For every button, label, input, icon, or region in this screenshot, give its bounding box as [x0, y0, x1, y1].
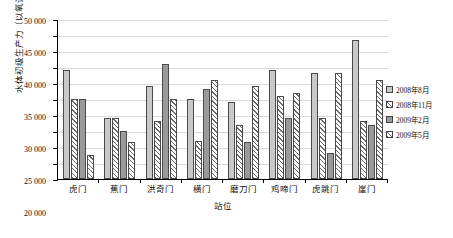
- bar: [162, 64, 169, 179]
- bar: [352, 40, 359, 179]
- bar: [87, 155, 94, 179]
- bar-group: [306, 20, 347, 179]
- bar-chart: 水体初级生产力（以氧计，mg/m³） 05 00010 00015 00020 …: [0, 0, 453, 238]
- legend-item[interactable]: 2008年8月: [386, 82, 452, 97]
- legend-swatch: [386, 116, 393, 123]
- y-axis-tick-label: 35 000: [2, 113, 46, 122]
- legend-swatch: [386, 101, 393, 108]
- bar: [170, 99, 177, 179]
- bar-groups: [58, 20, 388, 179]
- bar: [327, 153, 334, 179]
- y-axis-tick-label: 50 000: [2, 17, 46, 26]
- x-axis-tick-label: 崖门: [347, 182, 388, 194]
- x-axis-tick-label: 虎跳门: [305, 182, 346, 194]
- bar: [195, 141, 202, 179]
- legend-swatch: [386, 131, 393, 138]
- bar: [360, 121, 367, 179]
- bar: [228, 102, 235, 179]
- bar-group: [58, 20, 99, 179]
- bar: [79, 99, 86, 179]
- x-axis-tick-label: 磨刀门: [223, 182, 264, 194]
- bar: [146, 86, 153, 179]
- x-axis-tick-label: 洪奇门: [140, 182, 181, 194]
- bar-group: [141, 20, 182, 179]
- x-axis-tick-label: 横门: [181, 182, 222, 194]
- bar: [63, 70, 70, 179]
- legend-label: 2009年5月: [396, 129, 429, 140]
- bar: [112, 118, 119, 179]
- x-axis-tick-label: 虎门: [57, 182, 98, 194]
- y-axis-tick-label: 25 000: [2, 177, 46, 186]
- bar: [376, 80, 383, 179]
- bar: [71, 99, 78, 179]
- legend-swatch: [386, 86, 393, 93]
- legend-item[interactable]: 2009年2月: [386, 112, 452, 127]
- bar: [128, 142, 135, 179]
- y-axis-tick-label: 40 000: [2, 81, 46, 90]
- bar: [252, 86, 259, 179]
- bar-group: [264, 20, 305, 179]
- bar: [154, 121, 161, 179]
- bar-group: [347, 20, 388, 179]
- x-axis-title: 站位: [57, 199, 388, 211]
- y-axis-tick: 0: [53, 180, 58, 181]
- plot-area: 05 00010 00015 00020 00025 00030 00035 0…: [57, 20, 388, 180]
- legend: 2008年8月2008年11月2009年2月2009年5月: [386, 82, 452, 142]
- bar: [277, 96, 284, 179]
- bar: [368, 125, 375, 179]
- y-axis-tick-label: 30 000: [2, 145, 46, 154]
- x-axis-tick-label: 鸡啼门: [264, 182, 305, 194]
- bar: [236, 125, 243, 179]
- bar: [335, 73, 342, 179]
- y-axis-tick-label: 20 000: [2, 209, 46, 218]
- x-axis-tick-label: 蕉门: [98, 182, 139, 194]
- bar: [104, 118, 111, 179]
- y-axis-tick-label: 45 000: [2, 49, 46, 58]
- bar-group: [99, 20, 140, 179]
- bar: [311, 73, 318, 179]
- legend-label: 2008年8月: [396, 84, 429, 95]
- legend-label: 2008年11月: [396, 99, 432, 110]
- bar: [187, 99, 194, 179]
- bar-group: [223, 20, 264, 179]
- bar: [120, 131, 127, 179]
- bar: [244, 142, 251, 179]
- legend-item[interactable]: 2009年5月: [386, 127, 452, 142]
- bar: [319, 118, 326, 179]
- bar: [293, 93, 300, 179]
- x-axis-tick-labels: 虎门蕉门洪奇门横门磨刀门鸡啼门虎跳门崖门: [57, 182, 388, 194]
- bar-group: [182, 20, 223, 179]
- bar: [269, 70, 276, 179]
- bar: [285, 118, 292, 179]
- legend-label: 2009年2月: [396, 114, 429, 125]
- bar: [211, 80, 218, 179]
- legend-item[interactable]: 2008年11月: [386, 97, 452, 112]
- bar: [203, 89, 210, 179]
